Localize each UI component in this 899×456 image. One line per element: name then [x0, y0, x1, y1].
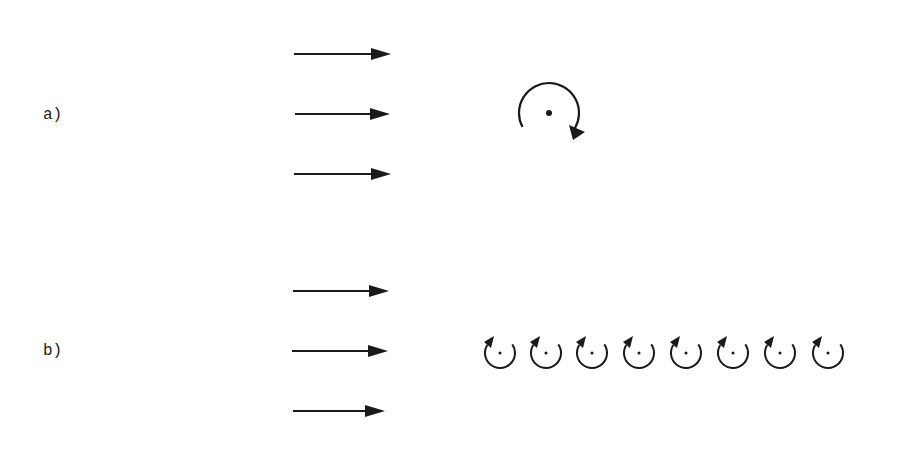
- panel-a: [294, 48, 585, 180]
- counterclockwise-vortex-icon: [670, 336, 701, 368]
- counterclockwise-vortex-icon: [484, 336, 515, 368]
- vortex-center-dot: [638, 352, 641, 355]
- panel-b: [292, 285, 843, 417]
- flow-arrow-icon: [294, 168, 391, 180]
- flow-arrow-icon: [293, 405, 385, 417]
- vortex-center-dot: [545, 352, 548, 355]
- counterclockwise-vortex-icon: [717, 336, 748, 368]
- flow-arrow-icon: [293, 285, 389, 297]
- vortex-center-dot: [685, 352, 688, 355]
- vortex-center-dot: [732, 352, 735, 355]
- counterclockwise-vortex-icon: [576, 336, 607, 368]
- counterclockwise-vortex-icon: [530, 336, 561, 368]
- flow-arrow-icon: [295, 108, 390, 120]
- flow-arrow-icon: [292, 345, 388, 357]
- vortex-center-dot: [779, 352, 782, 355]
- vortex-center-dot: [546, 110, 552, 116]
- vortex-center-dot: [591, 352, 594, 355]
- counterclockwise-vortex-icon: [764, 336, 795, 368]
- vortex-center-dot: [827, 352, 830, 355]
- counterclockwise-vortex-icon: [623, 336, 654, 368]
- vortex-center-dot: [499, 352, 502, 355]
- counterclockwise-vortex-icon: [812, 336, 843, 368]
- flow-diagram: [0, 0, 899, 456]
- flow-arrow-icon: [294, 48, 391, 60]
- clockwise-vortex-icon: [519, 83, 585, 140]
